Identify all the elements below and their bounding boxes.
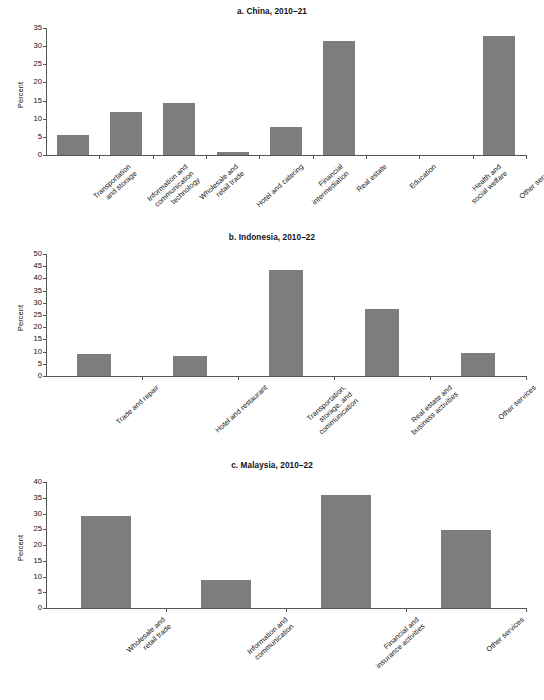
chart-panel-china: a. China, 2010–21 05101520253035PercentT…: [0, 6, 544, 230]
x-axis-category-label: Financial andinsurance activities: [368, 615, 427, 670]
y-axis-tick-label: 15: [24, 557, 42, 565]
x-axis-label-line: Real estate: [355, 162, 389, 194]
y-axis-tick-mark: [43, 327, 46, 328]
x-axis-tick-mark: [206, 155, 207, 159]
y-axis-tick-mark: [43, 561, 46, 562]
bar: [110, 112, 142, 155]
x-axis-category-label: Information andcommunication: [245, 615, 295, 663]
bar: [163, 103, 195, 155]
bar: [269, 270, 303, 376]
y-axis-tick-label: 35: [24, 494, 42, 502]
x-axis-category-label: Other services: [518, 162, 544, 201]
y-axis-title: Percent: [16, 305, 25, 331]
y-axis-tick-mark: [43, 608, 46, 609]
y-axis-tick-label: 20: [24, 323, 42, 331]
y-axis-tick-label: 25: [24, 311, 42, 319]
y-axis-tick-mark: [43, 514, 46, 515]
y-axis-tick-mark: [43, 545, 46, 546]
y-axis-tick-mark: [43, 498, 46, 499]
y-axis-tick-label: 10: [24, 573, 42, 581]
x-axis-category-label: Wholesale andretail trade: [198, 162, 246, 208]
bar: [270, 127, 302, 155]
y-axis-tick-label: 30: [24, 510, 42, 518]
y-axis-tick-label: 25: [24, 60, 42, 68]
figure-root: a. China, 2010–21 05101520253035PercentT…: [0, 0, 544, 700]
y-axis-tick-mark: [43, 315, 46, 316]
x-axis-category-label: Hotel and restaurant: [213, 383, 269, 435]
y-axis-tick-label: 30: [24, 42, 42, 50]
x-axis-label-line: Other services: [496, 383, 538, 422]
y-axis-tick-mark: [43, 339, 46, 340]
y-axis-tick-label: 5: [24, 360, 42, 368]
x-axis-tick-mark: [366, 155, 367, 159]
y-axis-tick-mark: [43, 266, 46, 267]
y-axis-tick-label: 0: [24, 151, 42, 159]
y-axis-tick-label: 25: [24, 525, 42, 533]
y-axis-tick-mark: [43, 119, 46, 120]
y-axis-tick-mark: [43, 577, 46, 578]
x-axis-category-label: Other services: [496, 383, 538, 422]
y-axis-tick-label: 40: [24, 478, 42, 486]
y-axis-line: [46, 482, 47, 608]
x-axis-tick-mark: [166, 608, 167, 612]
x-axis-line: [46, 376, 526, 377]
x-axis-category-label: Real estate: [355, 162, 389, 194]
y-axis-tick-label: 10: [24, 115, 42, 123]
y-axis-tick-mark: [43, 254, 46, 255]
y-axis-tick-label: 40: [24, 274, 42, 282]
x-axis-tick-mark: [313, 155, 314, 159]
y-axis-tick-label: 0: [24, 604, 42, 612]
y-axis-tick-label: 5: [24, 588, 42, 596]
y-axis-tick-label: 35: [24, 287, 42, 295]
x-axis-category-label: Transportationand storage: [91, 162, 138, 207]
y-axis-tick-label: 15: [24, 335, 42, 343]
y-axis-tick-mark: [43, 278, 46, 279]
x-axis-tick-mark: [334, 376, 335, 380]
bar: [483, 36, 515, 155]
panel-title-china: a. China, 2010–21: [0, 6, 544, 18]
x-axis-label-line: Other services: [518, 162, 544, 201]
x-axis-category-label: Education: [407, 162, 437, 191]
x-axis-category-label: Wholesale andretail trade: [125, 615, 173, 661]
x-axis-line: [46, 155, 526, 156]
chart-panel-malaysia: c. Malaysia, 2010–22 0510152025303540Per…: [0, 460, 544, 698]
plot-area-china: 05101520253035PercentTransportationand s…: [0, 18, 544, 228]
x-axis-tick-mark: [526, 155, 527, 159]
y-axis-line: [46, 28, 47, 155]
x-axis-category-label: Real estate andbusiness activities: [403, 383, 459, 436]
x-axis-tick-mark: [142, 376, 143, 380]
y-axis-tick-mark: [43, 101, 46, 102]
x-axis-label-line: Other services: [484, 615, 526, 654]
y-axis-tick-mark: [43, 28, 46, 29]
y-axis-tick-mark: [43, 529, 46, 530]
y-axis-line: [46, 254, 47, 376]
y-axis-title: Percent: [16, 535, 25, 561]
y-axis-tick-label: 45: [24, 262, 42, 270]
y-axis-tick-mark: [43, 376, 46, 377]
panel-title-malaysia: c. Malaysia, 2010–22: [0, 460, 544, 472]
x-axis-tick-mark: [526, 376, 527, 380]
bar: [321, 495, 371, 608]
plot-area-indonesia: 05101520253035404550PercentTrade and rep…: [0, 244, 544, 454]
bar: [323, 41, 355, 155]
bar: [201, 580, 251, 608]
x-axis-category-label: Health andsocial welfare: [464, 162, 509, 205]
x-axis-label-line: Hotel and catering: [254, 162, 305, 209]
x-axis-label-line: Trade and repair: [114, 383, 161, 426]
x-axis-label-line: Education: [407, 162, 437, 191]
y-axis-title: Percent: [16, 81, 25, 107]
y-axis-tick-label: 5: [24, 133, 42, 141]
plot-area-malaysia: 0510152025303540PercentWholesale andreta…: [0, 472, 544, 696]
x-axis-tick-mark: [406, 608, 407, 612]
y-axis-tick-mark: [43, 155, 46, 156]
y-axis-tick-mark: [43, 137, 46, 138]
x-axis-category-label: Transportation,storage, andcommunication: [305, 383, 360, 436]
x-axis-tick-mark: [99, 155, 100, 159]
y-axis-tick-label: 30: [24, 299, 42, 307]
y-axis-tick-label: 35: [24, 24, 42, 32]
x-axis-tick-mark: [430, 376, 431, 380]
x-axis-tick-mark: [286, 608, 287, 612]
x-axis-tick-mark: [419, 155, 420, 159]
x-axis-category-label: Financialintermediation: [304, 162, 351, 207]
chart-panel-indonesia: b. Indonesia, 2010–22 051015202530354045…: [0, 232, 544, 456]
